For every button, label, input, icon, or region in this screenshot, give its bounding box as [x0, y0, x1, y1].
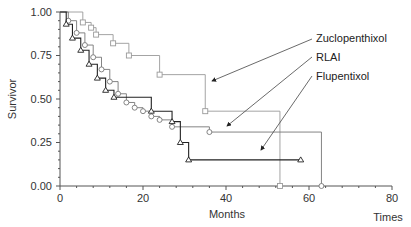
- x-tick-label: 60: [303, 192, 315, 204]
- marker-circle-icon: [82, 43, 87, 48]
- series-zuclopenthixol: [60, 12, 282, 189]
- arrow-flupentixol: [261, 76, 312, 150]
- arrow-rlai: [227, 57, 312, 126]
- y-tick-label: 0.25: [31, 136, 52, 148]
- legend-label-zuclopenthixol: Zuclopenthixol: [316, 32, 387, 44]
- y-tick-label: 1.00: [31, 6, 52, 18]
- x-axis-secondary-title: Times: [373, 211, 403, 223]
- x-axis: [60, 186, 392, 190]
- y-tick-label: 0.50: [31, 93, 52, 105]
- marker-square-icon: [277, 184, 282, 189]
- legend-label-rlai: RLAI: [316, 51, 340, 63]
- marker-circle-icon: [124, 100, 129, 105]
- legend-label-flupentixol: Flupentixol: [316, 70, 369, 82]
- marker-circle-icon: [170, 124, 175, 129]
- x-axis-title: Months: [209, 208, 246, 220]
- x-tick-label: 0: [57, 192, 63, 204]
- marker-square-icon: [157, 72, 162, 77]
- marker-circle-icon: [107, 79, 112, 84]
- marker-circle-icon: [132, 105, 137, 110]
- x-tick-label: 80: [386, 192, 398, 204]
- x-tick-label: 20: [137, 192, 149, 204]
- y-tick-label: 0.00: [31, 180, 52, 192]
- marker-circle-icon: [207, 130, 212, 135]
- y-axis: [56, 12, 60, 186]
- marker-circle-icon: [157, 117, 162, 122]
- series-layer: [60, 12, 324, 189]
- marker-circle-icon: [149, 114, 154, 119]
- x-tick-label: 40: [220, 192, 232, 204]
- marker-circle-icon: [319, 184, 324, 189]
- marker-circle-icon: [116, 91, 121, 96]
- marker-circle-icon: [141, 109, 146, 114]
- marker-square-icon: [111, 41, 116, 46]
- marker-square-icon: [203, 109, 208, 114]
- marker-circle-icon: [74, 30, 79, 35]
- marker-square-icon: [89, 25, 94, 30]
- y-tick-label: 0.75: [31, 49, 52, 61]
- marker-square-icon: [126, 53, 131, 58]
- marker-circle-icon: [91, 55, 96, 60]
- marker-square-icon: [80, 20, 85, 25]
- arrow-zuclopenthixol: [212, 39, 312, 81]
- y-axis-title: Survivor: [6, 78, 18, 119]
- survival-chart: 1.00 0.75 0.50 0.25 0.00 0 20 40 60 80 S…: [0, 0, 411, 227]
- marker-circle-icon: [99, 67, 104, 72]
- marker-square-icon: [94, 32, 99, 37]
